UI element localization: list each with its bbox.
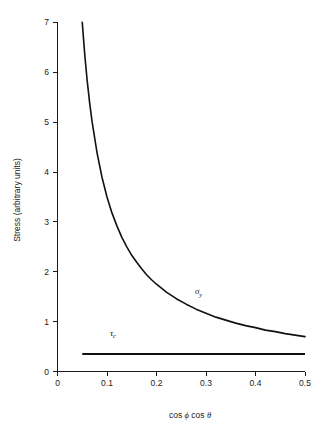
y-tick-label-1: 1 [44, 317, 49, 327]
y-tick-label-3: 3 [44, 217, 49, 227]
y-tick-label-2: 2 [44, 267, 49, 277]
x-tick-label-5: 0.5 [299, 378, 311, 388]
y-axis-tick-labels: 0 1 2 3 4 5 6 7 [44, 17, 49, 376]
y-tick-label-4: 4 [44, 167, 49, 177]
y-axis-ticks [53, 22, 58, 371]
x-axis-ticks [58, 372, 306, 377]
x-axis-tick-labels: 0 0.1 0.2 0.3 0.4 0.5 [55, 378, 311, 388]
y-tick-label-6: 6 [44, 67, 49, 77]
y-tick-label-0: 0 [44, 367, 49, 377]
x-tick-label-3: 0.3 [200, 378, 212, 388]
series-label-tau-c: τc [110, 328, 116, 339]
y-tick-label-7: 7 [44, 17, 49, 27]
x-tick-label-1: 0.1 [101, 378, 113, 388]
x-tick-label-2: 0.2 [151, 378, 163, 388]
series-label-sigma-y: σy [195, 286, 202, 297]
x-axis-title: cos ϕ cos θ [169, 410, 211, 420]
chart-figure: 0 1 2 3 4 5 6 7 0 0.1 0.2 0.3 0.4 0.5 [0, 0, 327, 438]
x-tick-label-0: 0 [55, 378, 60, 388]
series-sigma-y-curve [82, 22, 305, 336]
y-axis-title: Stress (arbitrary units) [12, 158, 22, 242]
x-tick-label-4: 0.4 [250, 378, 262, 388]
stress-vs-schmid-factor-chart: 0 1 2 3 4 5 6 7 0 0.1 0.2 0.3 0.4 0.5 [0, 0, 327, 438]
y-tick-label-5: 5 [44, 117, 49, 127]
